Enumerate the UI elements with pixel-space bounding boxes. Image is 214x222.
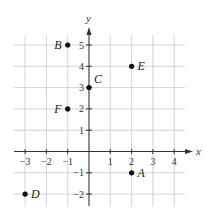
point-marker [129, 64, 134, 69]
y-tick-label: 3 [79, 82, 84, 93]
point-marker [23, 192, 28, 197]
coordinate-plane: x y −3−2−11234−2−112345 ABCDEF [0, 0, 214, 222]
x-axis-arrow-icon [185, 149, 193, 154]
point-marker [86, 85, 91, 90]
point-label: F [53, 102, 62, 116]
y-tick-label: 2 [79, 103, 84, 114]
data-points: ABCDEF [23, 38, 146, 201]
y-tick-label: 4 [79, 61, 84, 72]
x-tick-label: 2 [129, 156, 134, 167]
x-tick-label: −1 [62, 156, 73, 167]
point-marker [65, 106, 70, 111]
y-tick-label: −1 [73, 167, 84, 178]
x-tick-label: 1 [108, 156, 113, 167]
point-marker [129, 170, 134, 175]
x-tick-label: 3 [150, 156, 155, 167]
grid-lines [13, 35, 184, 206]
point-label: B [54, 38, 62, 52]
y-tick-label: 1 [79, 125, 84, 136]
point-label: D [30, 187, 40, 201]
point-label: C [94, 72, 103, 86]
x-tick-label: 4 [172, 156, 177, 167]
y-tick-label: 5 [79, 40, 84, 51]
x-tick-label: −3 [20, 156, 31, 167]
point-marker [65, 42, 70, 47]
y-axis-label: y [85, 12, 91, 24]
y-axis-arrow-icon [87, 27, 92, 35]
y-tick-label: −2 [73, 189, 84, 200]
x-axis-label: x [195, 145, 201, 157]
point-label: E [137, 59, 146, 73]
point-label: A [137, 166, 146, 180]
x-tick-label: −2 [41, 156, 52, 167]
